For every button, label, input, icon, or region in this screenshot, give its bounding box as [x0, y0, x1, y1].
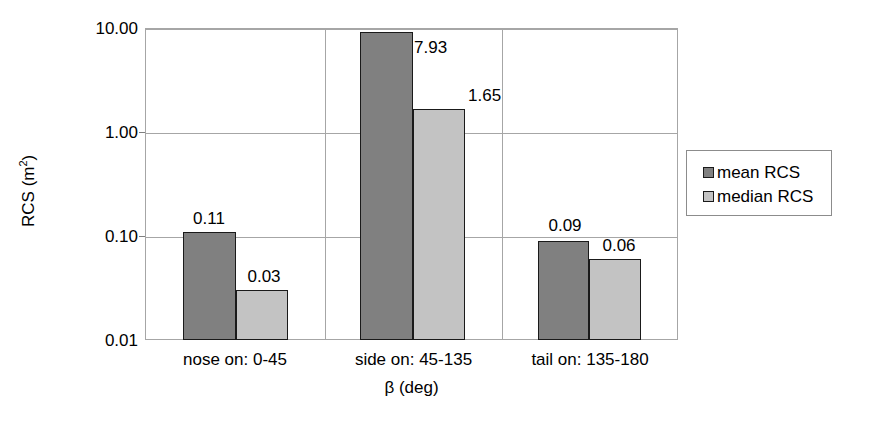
- bar-value-mean-side-on: 7.93: [414, 38, 480, 58]
- legend-label-mean-rcs: mean RCS: [717, 164, 800, 181]
- x-axis-title: β (deg): [145, 378, 678, 398]
- rcs-bar-chart-figure: 10.00 1.00 0.10 0.01 RCS (m2) 0.11 0.03 …: [0, 0, 875, 423]
- y-axis-title: RCS (m2): [17, 101, 39, 281]
- y-axis-title-suffix: ): [19, 155, 38, 161]
- bar-value-mean-nose-on: 0.11: [176, 209, 242, 229]
- legend-item-mean-rcs[interactable]: mean RCS: [703, 160, 831, 184]
- legend-swatch-median-rcs: [703, 191, 714, 202]
- category-separator-1: [325, 29, 326, 339]
- x-category-label-tail-on: tail on: 135-180: [502, 350, 678, 370]
- y-axis-title-base: RCS (m: [19, 167, 38, 227]
- x-category-label-side-on: side on: 45-135: [325, 350, 502, 370]
- legend: mean RCS median RCS: [686, 150, 832, 216]
- bar-value-median-nose-on: 0.03: [231, 267, 297, 287]
- bar-median-tail-on[interactable]: [589, 259, 641, 340]
- x-category-label-nose-on: nose on: 0-45: [145, 350, 325, 370]
- bar-mean-side-on[interactable]: [360, 32, 413, 340]
- category-separator-2: [502, 29, 503, 339]
- y-axis: 10.00 1.00 0.10 0.01: [60, 0, 138, 423]
- bar-value-mean-tail-on: 0.09: [532, 216, 598, 236]
- y-tick-label-0-01: 0.01: [68, 332, 138, 349]
- y-axis-title-exponent: 2: [17, 160, 29, 166]
- y-tick-label-10: 10.00: [68, 20, 138, 37]
- bar-mean-nose-on[interactable]: [183, 232, 236, 340]
- legend-item-median-rcs[interactable]: median RCS: [703, 184, 831, 208]
- y-tick-label-0-10: 0.10: [68, 228, 138, 245]
- bar-mean-tail-on[interactable]: [538, 241, 589, 340]
- gridline-10: [146, 29, 677, 30]
- bar-median-side-on[interactable]: [413, 109, 465, 340]
- bar-value-median-tail-on: 0.06: [586, 236, 652, 256]
- legend-label-median-rcs: median RCS: [717, 188, 813, 205]
- y-tick-label-1: 1.00: [68, 124, 138, 141]
- bar-value-median-side-on: 1.65: [468, 86, 534, 106]
- bar-median-nose-on[interactable]: [236, 290, 288, 340]
- legend-swatch-mean-rcs: [703, 167, 714, 178]
